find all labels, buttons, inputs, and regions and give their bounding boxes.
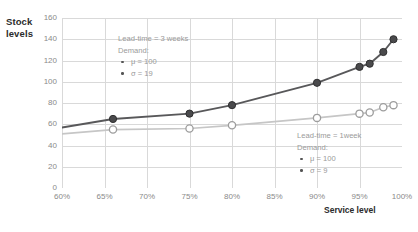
- bullet-icon: [300, 169, 303, 172]
- data-point: [313, 79, 320, 86]
- data-point: [186, 110, 193, 117]
- annotation-subtitle: Demand:: [118, 45, 188, 57]
- annotation-item-label: μ = 100: [310, 154, 336, 163]
- annotation-item: σ = 19: [118, 68, 188, 80]
- annotation-item: σ = 9: [297, 165, 361, 177]
- data-point: [313, 114, 320, 121]
- y-tick-label: 160: [31, 14, 57, 22]
- x-tick-label: 75%: [173, 193, 207, 201]
- annotation-title: Lead-time = 1week: [297, 130, 361, 142]
- x-tick-label: 100%: [385, 193, 418, 201]
- annotation-item-label: σ = 9: [310, 166, 328, 175]
- annotation-item-label: σ = 19: [131, 69, 153, 78]
- x-axis-title: Service level: [324, 205, 376, 215]
- x-tick-label: 85%: [258, 193, 292, 201]
- data-point: [390, 36, 397, 43]
- annotation-lead-time-1-week: Lead-time = 1weekDemand:μ = 100σ = 9: [297, 130, 361, 176]
- x-tick-label: 95%: [343, 193, 377, 201]
- data-point: [366, 109, 373, 116]
- x-tick-label: 60%: [45, 193, 79, 201]
- annotation-subtitle: Demand:: [297, 142, 361, 154]
- data-point: [228, 122, 235, 129]
- annotation-item: μ = 100: [297, 153, 361, 165]
- series-1: [62, 36, 397, 128]
- x-tick-label: 80%: [215, 193, 249, 201]
- data-point: [356, 110, 363, 117]
- series-layer: [62, 36, 397, 134]
- x-tick-label: 70%: [130, 193, 164, 201]
- y-tick-label: 120: [31, 57, 57, 65]
- y-tick-label: 0: [31, 184, 57, 192]
- y-tick-label: 40: [31, 142, 57, 150]
- y-tick-label: 60: [31, 120, 57, 128]
- x-tick-label: 65%: [88, 193, 122, 201]
- annotation-title: Lead-time = 3 weeks: [118, 33, 188, 45]
- annotation-lead-time-3-weeks: Lead-time = 3 weeksDemand:μ = 100σ = 19: [118, 33, 188, 79]
- x-tick-label: 90%: [300, 193, 334, 201]
- annotation-item: μ = 100: [118, 56, 188, 68]
- data-point: [366, 60, 373, 67]
- bullet-icon: [121, 61, 124, 64]
- bullet-icon: [300, 158, 303, 161]
- data-point: [356, 63, 363, 70]
- y-tick-label: 100: [31, 78, 57, 86]
- data-point: [380, 48, 387, 55]
- data-point: [390, 102, 397, 109]
- y-tick-label: 140: [31, 35, 57, 43]
- data-point: [380, 104, 387, 111]
- data-point: [228, 102, 235, 109]
- stock-levels-chart: Stock levels Service level 0204060801001…: [0, 0, 418, 232]
- data-point: [109, 126, 116, 133]
- y-tick-label: 20: [31, 163, 57, 171]
- data-point: [109, 115, 116, 122]
- annotation-item-label: μ = 100: [131, 57, 157, 66]
- bullet-icon: [121, 72, 124, 75]
- data-point: [186, 125, 193, 132]
- series-line: [62, 39, 394, 127]
- y-tick-label: 80: [31, 99, 57, 107]
